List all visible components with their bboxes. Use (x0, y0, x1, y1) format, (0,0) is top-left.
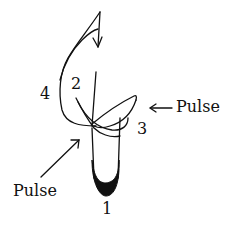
pulse-label-right: Pulse (176, 99, 220, 115)
beat-3-crescent-lower (94, 100, 136, 128)
pulse-label-lower-left: Pulse (13, 183, 57, 199)
beat-4-inner-curve (60, 29, 98, 80)
beat-number-1: 1 (102, 201, 112, 217)
beat-number-4: 4 (40, 86, 50, 102)
center-vertical-stroke (92, 72, 96, 126)
top-arrowhead (93, 37, 102, 47)
beat-3-crescent-upper (92, 96, 136, 124)
beat-number-2: 2 (71, 76, 81, 92)
beat-number-3: 3 (137, 121, 147, 137)
beat-1-u-shape (92, 160, 119, 196)
pulse-arrow-right (150, 104, 172, 112)
pulse-arrow-lower-left (41, 140, 79, 177)
beat-4-outer-curve (60, 12, 100, 126)
